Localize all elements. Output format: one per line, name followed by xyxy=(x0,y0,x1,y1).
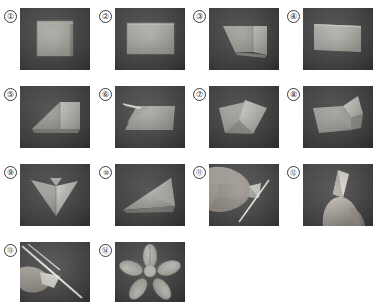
step-photo-11 xyxy=(209,164,279,226)
step-number-badge-3: ③ xyxy=(193,10,206,23)
origami-instruction-sheet: ① ② xyxy=(0,0,378,305)
step-number-badge-2: ② xyxy=(99,10,112,23)
step-number-badge-13: ⑬ xyxy=(4,244,17,257)
step-number-badge-7: ⑦ xyxy=(193,88,206,101)
step-photo-14 xyxy=(115,242,185,302)
step-photo-10 xyxy=(115,164,185,226)
step-photo-4 xyxy=(303,8,373,70)
step-number-badge-14: ⑭ xyxy=(99,244,112,257)
step-number-badge-8: ⑧ xyxy=(287,88,300,101)
step-photo-2 xyxy=(115,8,185,70)
step-number-badge-6: ⑥ xyxy=(99,88,112,101)
step-photo-13 xyxy=(20,242,90,302)
step-number-badge-12: ⑫ xyxy=(287,166,300,179)
step-number-badge-9: ⑨ xyxy=(4,166,17,179)
step-number-badge-5: ⑤ xyxy=(4,88,17,101)
step-photo-8 xyxy=(303,86,373,148)
step-photo-5 xyxy=(20,86,90,148)
step-number-badge-4: ④ xyxy=(287,10,300,23)
step-photo-9 xyxy=(20,164,90,226)
step-photo-12 xyxy=(303,164,373,226)
step-photo-3 xyxy=(209,8,279,70)
step-number-badge-1: ① xyxy=(4,10,17,23)
step-photo-1 xyxy=(20,8,90,70)
step-number-badge-11: ⑪ xyxy=(193,166,206,179)
step-photo-7 xyxy=(209,86,279,148)
step-photo-6 xyxy=(115,86,185,148)
step-number-badge-10: ⑩ xyxy=(99,166,112,179)
